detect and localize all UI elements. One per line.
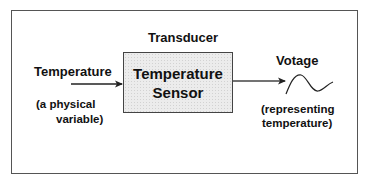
connectors xyxy=(0,0,366,181)
waveform-icon xyxy=(286,75,333,94)
